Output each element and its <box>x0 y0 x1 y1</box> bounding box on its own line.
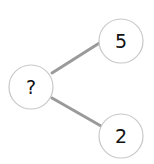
node-part-bottom: 2 <box>99 114 143 158</box>
edge-whole-to-top <box>52 42 101 73</box>
node-whole: ? <box>9 65 53 109</box>
node-part-top: 5 <box>99 19 143 63</box>
node-part-bottom-label: 2 <box>115 125 127 147</box>
diagram-svg: ? 5 2 <box>0 0 154 164</box>
edge-whole-to-bottom <box>52 98 101 126</box>
node-part-top-label: 5 <box>115 30 127 52</box>
node-whole-label: ? <box>26 76 36 98</box>
number-bond-diagram: ? 5 2 <box>0 0 154 164</box>
